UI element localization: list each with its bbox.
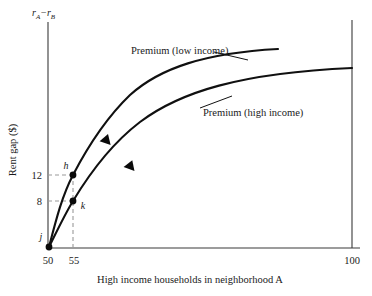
curve-premium-high-income: [49, 68, 352, 247]
curve-label-low-income: Premium (low income): [131, 45, 229, 57]
rent-gap-chart: j h k rA−rB 12 8 50 55 100 Premium (low …: [0, 0, 372, 296]
point-label-h: h: [64, 160, 69, 171]
chart-figure: j h k rA−rB 12 8 50 55 100 Premium (low …: [0, 0, 372, 296]
point-label-k: k: [81, 200, 86, 211]
point-label-j: j: [38, 231, 43, 242]
y-tick-label-12: 12: [32, 170, 43, 181]
data-point-j: [46, 244, 53, 251]
y-axis-title: Rent gap ($): [7, 123, 19, 176]
x-tick-label-100: 100: [344, 255, 360, 266]
curve-label-high-income: Premium (high income): [203, 107, 304, 119]
y-axis-symbol-label: rA−rB: [32, 7, 56, 21]
x-axis-title: High income households in neighborhood A: [97, 274, 283, 285]
data-point-h: [70, 172, 77, 179]
y-tick-label-8: 8: [37, 196, 42, 207]
data-point-k: [70, 198, 77, 205]
curve-premium-low-income: [49, 49, 278, 247]
arrow-marker-high-income: [124, 160, 139, 175]
y-axis-symbol-sub-b: B: [51, 13, 56, 21]
y-axis-symbol-minus: −: [40, 7, 47, 18]
x-tick-label-50: 50: [43, 255, 54, 266]
x-tick-label-55: 55: [69, 255, 80, 266]
